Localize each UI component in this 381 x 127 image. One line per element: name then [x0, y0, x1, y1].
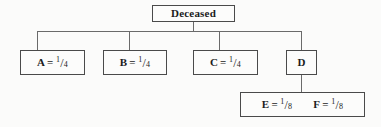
inheritance-tree-diagram: Deceased A = 1 / 4 B = 1 / 4 C =: [0, 0, 381, 127]
node-heirs-ef[interactable]: E = 1 / 8 F = 1 / 8: [240, 92, 365, 117]
node-heir-a-label: A = 1 / 4: [37, 57, 68, 69]
heir-a-name: A: [37, 57, 45, 68]
node-heir-b-label: B = 1 / 4: [120, 57, 150, 69]
heir-a-equals: =: [45, 57, 56, 68]
connector-drop-d: [301, 31, 302, 50]
heir-f-equals: =: [320, 99, 331, 110]
heir-b-name: B: [120, 57, 128, 68]
node-heir-b[interactable]: B = 1 / 4: [103, 50, 167, 75]
node-deceased[interactable]: Deceased: [152, 5, 235, 22]
heir-b-share: 1 / 4: [138, 57, 150, 69]
connector-drop-b: [129, 31, 130, 50]
heir-c-share: 1 / 4: [229, 57, 241, 69]
heir-a-share: 1 / 4: [56, 57, 68, 69]
node-heir-d-label: D: [297, 57, 305, 68]
heir-f-share: 1 / 8: [331, 99, 343, 111]
node-heir-c[interactable]: C = 1 / 4: [193, 50, 258, 75]
node-deceased-label: Deceased: [171, 8, 216, 19]
heir-f-denominator: 8: [339, 103, 343, 111]
heir-c-name: C: [210, 57, 218, 68]
heir-b-denominator: 4: [146, 61, 150, 69]
heir-e-name: E: [262, 99, 270, 110]
node-heir-c-label: C = 1 / 4: [210, 57, 241, 69]
connector-drop-c: [219, 31, 220, 50]
node-heir-d[interactable]: D: [286, 50, 317, 75]
connector-bus-bar: [37, 31, 302, 32]
heir-e-equals: =: [269, 99, 280, 110]
node-heir-a[interactable]: A = 1 / 4: [20, 50, 85, 75]
heir-b-equals: =: [127, 57, 138, 68]
node-heirs-ef-label: E = 1 / 8 F = 1 / 8: [262, 99, 343, 111]
connector-drop-d-to-ef: [301, 75, 302, 92]
heir-a-denominator: 4: [64, 61, 68, 69]
heir-c-denominator: 4: [237, 61, 241, 69]
heir-e-share: 1 / 8: [280, 99, 292, 111]
heir-e-denominator: 8: [288, 103, 292, 111]
connector-drop-a: [37, 31, 38, 50]
heir-c-equals: =: [218, 57, 229, 68]
heir-f-name: F: [313, 99, 320, 110]
